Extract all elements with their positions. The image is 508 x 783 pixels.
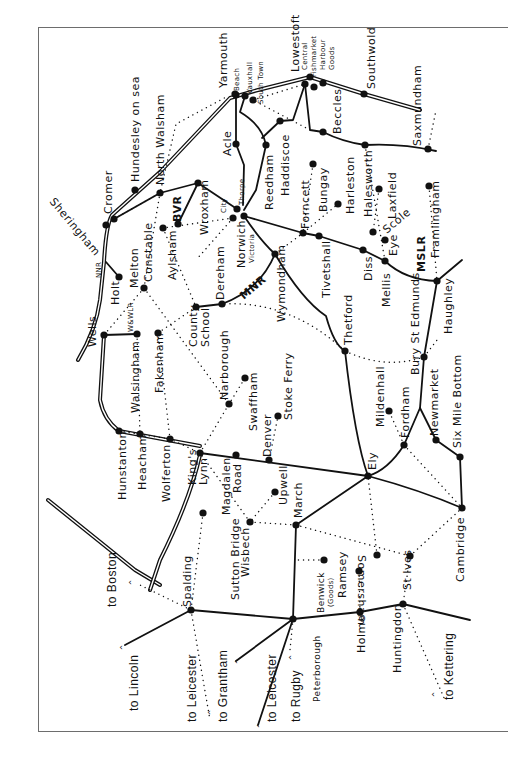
station-label: Narborough: [219, 330, 230, 400]
station-dot: [218, 300, 225, 307]
station-label: Melton: [129, 248, 140, 288]
station-dot: [115, 273, 122, 280]
station-dot: [276, 117, 283, 124]
station-label: Constable: [143, 223, 154, 282]
station-label: South Town: [258, 61, 265, 104]
station-label: Saxmundham: [412, 65, 423, 146]
station-dot: [299, 229, 306, 236]
station-label: Wymondham: [276, 244, 287, 322]
dotted-route: [368, 476, 377, 555]
station-label: Hundesley on sea: [130, 76, 141, 182]
arrow-icon: ‹: [256, 720, 260, 730]
station-label: Framlingham: [430, 181, 441, 259]
station-dot: [187, 606, 194, 613]
station-label: Fakenham: [154, 333, 165, 393]
dotted-route: [253, 100, 310, 130]
arrow-icon: ‹: [128, 577, 132, 587]
station-label: Cambridge: [455, 517, 466, 582]
station-dot: [424, 145, 431, 152]
station-dot: [375, 185, 382, 192]
station-label: Spalding: [182, 555, 193, 607]
station-label: Dereham: [215, 246, 226, 300]
station-label: to Leicester: [266, 654, 278, 722]
station-label: Acle: [222, 131, 233, 156]
dotted-route: [250, 522, 410, 556]
station-dot: [334, 200, 341, 207]
station-dot: [249, 96, 256, 103]
station-label: Newmarket: [429, 368, 440, 436]
station-label: Wells: [87, 316, 98, 347]
station-label: Beach: [234, 68, 241, 91]
station-label: Bungay: [318, 167, 329, 212]
station-label: Harbour: [320, 39, 327, 70]
station-label: Upwell: [278, 465, 289, 505]
dotted-route: [428, 110, 436, 149]
station-dot: [369, 228, 376, 235]
station-dot: [225, 400, 232, 407]
station-label: County: [188, 305, 199, 347]
railway-line: [104, 334, 137, 335]
station-label: (Goods): [328, 577, 335, 607]
station-dot: [400, 441, 407, 448]
station-label: BVR: [172, 196, 183, 222]
station-label: Walsingham: [130, 341, 141, 413]
station-label: W&WLR: [128, 302, 135, 332]
coastline: [100, 335, 200, 446]
station-label: Heacham: [137, 434, 148, 490]
station-label: Norwich: [236, 220, 247, 268]
station-label: Reedham: [264, 154, 275, 210]
station-dot: [309, 160, 316, 167]
station-dot: [100, 331, 107, 338]
station-label: Huntingdon: [392, 604, 403, 673]
station-label: Wolferton: [161, 444, 172, 502]
station-dot: [131, 186, 138, 193]
station-dot: [274, 412, 281, 419]
station-label: Hunstanton: [117, 431, 128, 500]
station-label: Eye: [388, 234, 399, 256]
station-label: Forncett: [300, 180, 311, 229]
station-label: Beccles: [332, 89, 343, 134]
station-dot: [319, 128, 326, 135]
station-dot: [381, 257, 388, 264]
station-label: Aylsham: [167, 230, 178, 280]
station-dot: [359, 246, 366, 253]
station-label: City: [221, 198, 228, 213]
station-label: Bury St Edmunds: [410, 272, 421, 375]
station-dot: [341, 347, 348, 354]
station-label: to Kettering: [443, 633, 455, 700]
station-label: Fishmarket: [311, 36, 318, 77]
station-label: to Leicester: [186, 654, 198, 722]
station-dot: [364, 472, 371, 479]
station-label: School: [200, 307, 211, 347]
station-dot: [166, 435, 173, 442]
station-label: Ramsey: [337, 551, 348, 598]
station-label: to Rugby: [290, 670, 302, 722]
station-dot: [433, 277, 440, 284]
station-label: Ely: [367, 452, 378, 470]
station-dot: [319, 79, 326, 86]
station-label: Halesworth: [363, 150, 374, 217]
station-label: North Walsham: [155, 94, 166, 185]
station-label: St Ives: [402, 549, 413, 590]
station-label: Goods: [329, 46, 336, 70]
station-label: Lynn: [198, 457, 209, 485]
station-label: Southwold: [366, 27, 377, 89]
station-label: Central: [302, 42, 309, 70]
station-label: Mildenhall: [375, 366, 386, 427]
station-dot: [432, 436, 439, 443]
station-label: Yarmouth: [218, 32, 229, 88]
station-label: Denver: [262, 414, 273, 457]
station-dot: [289, 615, 296, 622]
station-dot: [231, 90, 238, 97]
arrow-icon: ‹: [288, 652, 292, 662]
station-label: Harleston: [345, 156, 356, 214]
station-label: MSLR: [416, 236, 427, 272]
station-label: Victoria: [249, 234, 256, 263]
station-label: Stoke Ferry: [283, 352, 294, 420]
station-label: Vauxhall: [247, 62, 254, 94]
arrow-icon: ‹: [207, 707, 211, 717]
station-label: Benwick: [317, 572, 326, 613]
station-label: Haddiscoe: [280, 134, 291, 196]
station-label: NNR: [96, 262, 103, 278]
